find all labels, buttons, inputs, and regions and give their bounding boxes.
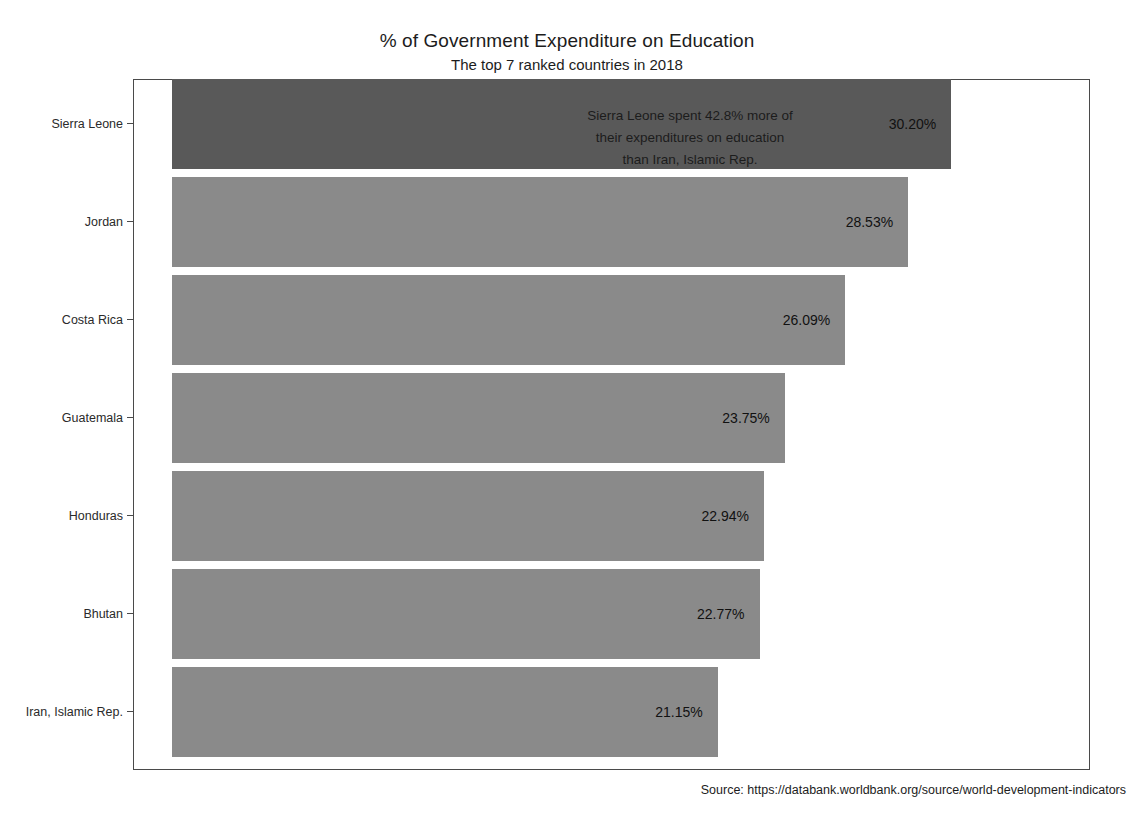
chart-title: % of Government Expenditure on Education (0, 30, 1134, 52)
y-axis-tick-label: Bhutan (83, 569, 133, 659)
bar-value-label: 21.15% (623, 667, 703, 757)
bar-value-label: 26.09% (750, 275, 830, 365)
y-axis: Sierra Leone Jordan Costa Rica Guatemala… (0, 79, 133, 770)
chart-subtitle: The top 7 ranked countries in 2018 (0, 56, 1134, 73)
bar-value-label: 30.20% (856, 79, 936, 169)
y-axis-tick-label: Iran, Islamic Rep. (26, 667, 133, 757)
y-axis-tick-label: Costa Rica (62, 275, 133, 365)
annotation-line: their expenditures on education (540, 127, 840, 149)
bar-value-label: 22.94% (669, 471, 749, 561)
y-axis-tick-label: Jordan (85, 177, 133, 267)
chart-annotation: Sierra Leone spent 42.8% more of their e… (540, 105, 840, 171)
annotation-line: Sierra Leone spent 42.8% more of (540, 105, 840, 127)
y-axis-tick-label: Guatemala (62, 373, 133, 463)
bar-jordan[interactable] (172, 177, 908, 267)
annotation-line: than Iran, Islamic Rep. (540, 149, 840, 171)
source-note: Source: https://databank.worldbank.org/s… (701, 783, 1126, 797)
bar-value-label: 23.75% (690, 373, 770, 463)
y-axis-tick-label: Honduras (69, 471, 133, 561)
y-axis-tick-label: Sierra Leone (51, 79, 133, 169)
bar-value-label: 22.77% (665, 569, 745, 659)
bars-layer: 30.20% 28.53% 26.09% 23.75% 22.94% 22.77… (133, 79, 1090, 770)
bar-value-label: 28.53% (813, 177, 893, 267)
bar-costa-rica[interactable] (172, 275, 845, 365)
